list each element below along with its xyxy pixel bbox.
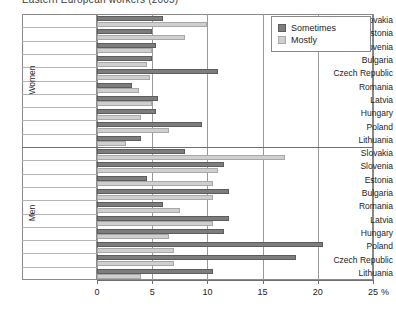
legend-item-mostly: Mostly: [278, 35, 364, 45]
bar-mostly: [97, 168, 218, 173]
bar-mostly: [97, 101, 152, 106]
category-label: Bulgaria: [362, 189, 393, 198]
bar-mostly: [97, 35, 185, 40]
category-label: Poland: [367, 123, 393, 132]
panel-divider: [22, 147, 373, 148]
tick-15: [263, 280, 264, 284]
tick-20: [318, 280, 319, 284]
bar-sometimes: [97, 229, 224, 234]
tick-label-20: 20: [313, 287, 323, 297]
bar-mostly: [97, 261, 174, 266]
category-label: Czech Republic: [333, 256, 393, 265]
tick-5: [152, 280, 153, 284]
category-label: Czech Republic: [333, 69, 393, 78]
bar-sometimes: [97, 83, 132, 88]
bar-mostly: [97, 48, 152, 53]
bar-sometimes: [97, 216, 229, 221]
legend-label-sometimes: Sometimes: [291, 23, 336, 33]
bar-sometimes: [97, 122, 202, 127]
bar-mostly: [97, 221, 213, 226]
category-label: Romania: [359, 202, 393, 211]
category-label: Slovenia: [360, 162, 393, 171]
category-label: Hungary: [361, 109, 393, 118]
x-axis-unit-label: %: [381, 287, 389, 297]
bar-mostly: [97, 75, 150, 80]
category-label: Hungary: [361, 229, 393, 238]
bar-mostly: [97, 234, 169, 239]
bar-sometimes: [97, 56, 152, 61]
bar-sometimes: [97, 176, 147, 181]
bar-sometimes: [97, 202, 163, 207]
tick-label-5: 5: [150, 287, 155, 297]
row-separator: [22, 41, 97, 42]
category-label: Poland: [367, 242, 393, 251]
tick-label-25: 25: [368, 287, 378, 297]
tick-label-10: 10: [202, 287, 212, 297]
bar-mostly: [97, 274, 141, 279]
row-separator: [22, 160, 97, 161]
category-label: Lithuania: [358, 269, 393, 278]
category-label: Latvia: [370, 216, 393, 225]
bar-mostly: [97, 141, 126, 146]
bar-sometimes: [97, 43, 156, 48]
category-label: Bulgaria: [362, 56, 393, 65]
bar-mostly: [97, 208, 180, 213]
bar-mostly: [97, 22, 207, 27]
bar-mostly: [97, 128, 169, 133]
chart-root: Eastern European workers (2005) Slovakia…: [0, 0, 396, 309]
category-label: Latvia: [370, 96, 393, 105]
tick-25: [373, 280, 374, 284]
bar-mostly: [97, 115, 141, 120]
bar-sometimes: [97, 109, 156, 114]
legend: Sometimes Mostly: [271, 16, 371, 52]
row-separator: [22, 240, 97, 241]
bar-mostly: [97, 155, 285, 160]
row-separator: [22, 134, 97, 135]
bar-sometimes: [97, 269, 213, 274]
row-separator: [22, 107, 97, 108]
group-label-women: Women: [27, 60, 37, 100]
bar-mostly: [97, 62, 147, 67]
row-separator: [22, 187, 97, 188]
bar-mostly: [97, 195, 213, 200]
bar-mostly: [97, 88, 139, 93]
row-separator: [22, 253, 97, 254]
category-label: Lithuania: [358, 136, 393, 145]
row-separator: [22, 27, 97, 28]
legend-label-mostly: Mostly: [291, 35, 317, 45]
row-separator: [22, 120, 97, 121]
bar-sometimes: [97, 16, 163, 21]
bar-sometimes: [97, 162, 224, 167]
gridline-25: [373, 14, 374, 280]
bar-mostly: [97, 248, 174, 253]
row-separator: [22, 54, 97, 55]
tick-0: [97, 280, 98, 284]
bar-sometimes: [97, 149, 185, 154]
legend-swatch-sometimes-icon: [278, 24, 286, 32]
category-label: Slovakia: [361, 149, 393, 158]
bar-sometimes: [97, 136, 141, 141]
tick-label-15: 15: [258, 287, 268, 297]
tick-10: [207, 280, 208, 284]
bar-sometimes: [97, 69, 218, 74]
row-separator: [22, 267, 97, 268]
tick-label-0: 0: [94, 287, 99, 297]
bar-sometimes: [97, 29, 152, 34]
x-axis-line: [97, 280, 373, 281]
category-label: Estonia: [365, 176, 393, 185]
bar-sometimes: [97, 189, 229, 194]
row-separator: [22, 174, 97, 175]
category-label: Romania: [359, 83, 393, 92]
group-label-men: Men: [27, 193, 37, 233]
bar-sometimes: [97, 242, 323, 247]
legend-swatch-mostly-icon: [278, 36, 286, 44]
chart-title: Eastern European workers (2005): [22, 0, 178, 5]
legend-item-sometimes: Sometimes: [278, 23, 364, 33]
bar-sometimes: [97, 96, 158, 101]
bar-sometimes: [97, 255, 296, 260]
bar-mostly: [97, 181, 213, 186]
